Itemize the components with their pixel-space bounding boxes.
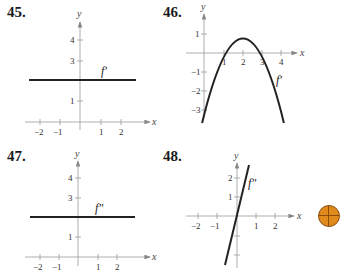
y-tick: −3 xyxy=(191,105,201,115)
x-tick: −2 xyxy=(191,221,201,231)
graph-47: x y −2 −1 1 2 1 3 4 f″ xyxy=(25,148,157,272)
y-axis-label: y xyxy=(200,1,206,12)
y-tick: 1 xyxy=(70,96,75,106)
x-tick: 1 xyxy=(99,127,104,137)
x-tick: 2 xyxy=(241,57,246,67)
y-axis-label: y xyxy=(74,148,80,159)
graph-48: x y −2 −1 1 2 1 2 f″ xyxy=(186,150,302,268)
x-axis-label: x xyxy=(299,47,305,58)
x-tick: −1 xyxy=(52,262,62,272)
y-axis-label: y xyxy=(233,150,239,161)
x-tick: 2 xyxy=(119,127,124,137)
x-tick: −2 xyxy=(33,262,43,272)
y-tick: −2 xyxy=(191,86,201,96)
orange-globe-icon xyxy=(318,205,340,227)
y-tick: 1 xyxy=(228,192,233,202)
function-label: f′ xyxy=(101,64,107,78)
x-tick: −1 xyxy=(210,221,220,231)
x-tick: 1 xyxy=(96,262,101,272)
function-label: f″ xyxy=(248,176,257,190)
y-tick: 4 xyxy=(70,35,75,45)
y-tick: −1 xyxy=(191,67,201,77)
function-label: f″ xyxy=(95,201,104,215)
y-tick: 3 xyxy=(70,56,75,66)
graph-46: x y 1 2 3 4 1 −1 −2 −3 f′ xyxy=(186,1,305,123)
x-tick: 1 xyxy=(254,221,259,231)
x-tick: 2 xyxy=(115,262,120,272)
x-tick: −1 xyxy=(53,127,63,137)
x-axis-label: x xyxy=(151,116,157,127)
x-tick: 2 xyxy=(273,221,278,231)
y-tick: 4 xyxy=(68,173,73,183)
y-tick: 1 xyxy=(195,29,200,39)
y-tick: 3 xyxy=(68,193,73,203)
x-axis-label: x xyxy=(151,251,157,262)
x-tick: −2 xyxy=(34,127,44,137)
x-axis-label: x xyxy=(296,210,302,221)
y-tick: 2 xyxy=(228,173,233,183)
y-axis-label: y xyxy=(76,8,82,19)
x-tick: 4 xyxy=(279,57,284,67)
function-label: f′ xyxy=(276,73,282,87)
graph-45: x y −2 −1 1 2 1 3 4 f′ xyxy=(25,8,157,137)
y-tick: 1 xyxy=(68,232,73,242)
